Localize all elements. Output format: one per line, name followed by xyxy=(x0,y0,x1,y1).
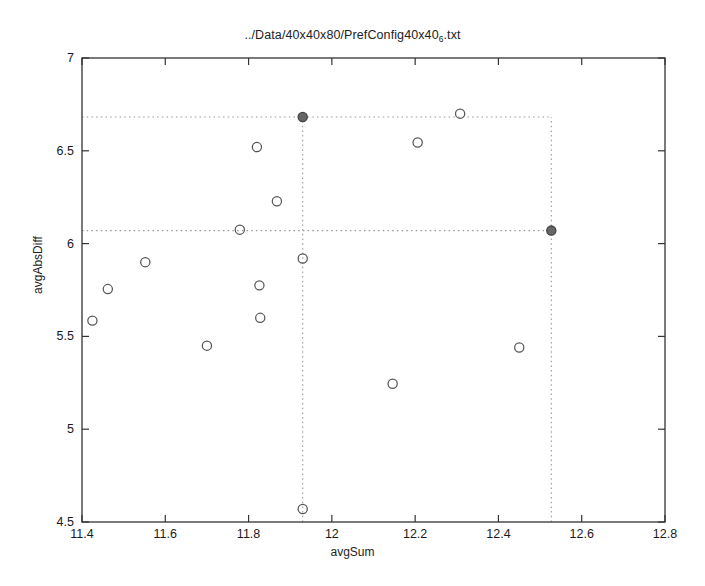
data-point xyxy=(202,341,211,350)
data-point xyxy=(515,343,524,352)
data-point xyxy=(456,109,465,118)
data-point-highlighted xyxy=(298,112,307,121)
axis-ticks xyxy=(82,58,665,522)
axes-frame xyxy=(82,58,665,522)
data-point xyxy=(252,142,261,151)
data-point xyxy=(256,313,265,322)
data-point xyxy=(272,197,281,206)
data-point-highlighted xyxy=(547,226,556,235)
scatter-plot-figure: ../Data/40x40x80/PrefConfig40x406.txt av… xyxy=(0,0,705,586)
data-point xyxy=(388,379,397,388)
data-point xyxy=(235,225,244,234)
data-point xyxy=(88,316,97,325)
guide-lines xyxy=(82,117,551,522)
data-point xyxy=(103,284,112,293)
data-point xyxy=(141,258,150,267)
data-point xyxy=(255,281,264,290)
data-point xyxy=(413,138,422,147)
data-markers xyxy=(88,109,556,514)
plot-canvas xyxy=(0,0,705,586)
